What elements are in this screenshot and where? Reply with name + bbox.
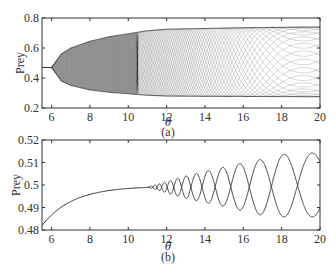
- x-tick-label: 10: [122, 110, 134, 124]
- figure: 68101214161820 0.20.40.60.8 Prey θ (a) 6…: [0, 0, 336, 271]
- x-tick-label: 14: [199, 232, 211, 246]
- x-tick-label: 6: [49, 232, 55, 246]
- y-tick-label: 0.5: [24, 178, 39, 192]
- x-tick-label: 10: [122, 232, 134, 246]
- x-tick-label: 18: [276, 232, 288, 246]
- x-tick-label: 8: [87, 110, 93, 124]
- x-tick-label: 16: [237, 232, 249, 246]
- oscillation-branch: [147, 154, 320, 217]
- x-tick-label: 6: [49, 110, 55, 124]
- y-tick-label: 0.52: [18, 133, 39, 147]
- main-branch-line: [42, 187, 147, 225]
- y-tick-label: 0.2: [24, 101, 39, 115]
- panel-b: 68101214161820 0.480.490.50.510.52 Prey …: [9, 133, 326, 264]
- panel-a-y-axis-label: Prey: [13, 52, 27, 74]
- x-tick-label: 8: [87, 232, 93, 246]
- panel-b-traces: [42, 153, 320, 225]
- y-tick-label: 0.8: [24, 11, 39, 25]
- y-tick-label: 0.51: [18, 156, 39, 170]
- y-tick-label: 0.48: [18, 223, 39, 237]
- panel-a-traces: [42, 27, 320, 97]
- panel-b-y-ticks: 0.480.490.50.510.52: [18, 133, 320, 237]
- panel-a-caption: (a): [161, 125, 174, 139]
- panel-a: 68101214161820 0.20.40.60.8 Prey θ (a): [13, 11, 326, 139]
- x-tick-label: 20: [314, 232, 326, 246]
- panel-b-y-axis-label: Prey: [9, 174, 23, 196]
- x-tick-label: 16: [237, 110, 249, 124]
- x-tick-label: 20: [314, 110, 326, 124]
- y-tick-label: 0.49: [18, 201, 39, 215]
- panel-b-caption: (b): [161, 250, 175, 264]
- x-tick-label: 18: [276, 110, 288, 124]
- x-tick-label: 14: [199, 110, 211, 124]
